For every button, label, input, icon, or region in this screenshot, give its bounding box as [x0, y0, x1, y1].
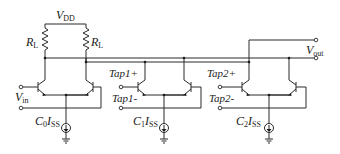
tap1-negative-terminal [119, 106, 123, 110]
vout-label: Vout [306, 44, 324, 58]
vin-label: Vin [15, 91, 29, 105]
c0-iss-label: C0ISS [35, 115, 60, 129]
vout-line [249, 40, 314, 62]
vout-positive-terminal [314, 38, 318, 42]
tap2-negative-terminal [218, 106, 222, 110]
c1-iss-label: C1ISS [133, 115, 158, 129]
vin-positive-terminal [19, 85, 23, 89]
load-resistor-left [42, 24, 48, 58]
tap1-minus-label: Tap1- [112, 93, 137, 104]
tap2-minus-label: Tap2- [209, 93, 234, 104]
load-resistor-right [83, 24, 89, 62]
stage-0-diffpair [19, 58, 101, 143]
vin-negative-terminal [19, 106, 23, 110]
rl-left-label: RL [26, 36, 38, 50]
tap2-plus-label: Tap2+ [207, 68, 236, 79]
c2-iss-label: C2ISS [236, 115, 261, 129]
tap1-positive-terminal [119, 85, 123, 89]
tap2-positive-terminal [218, 85, 222, 89]
tap1-plus-label: Tap1+ [109, 68, 138, 79]
circuit-diagram: VDD RL RL Vin Vout C0ISS Tap1+ Tap1- C1I… [0, 0, 340, 154]
schematic-canvas [0, 0, 340, 154]
rl-right-label: RL [91, 36, 103, 50]
vdd-label: VDD [56, 9, 75, 23]
